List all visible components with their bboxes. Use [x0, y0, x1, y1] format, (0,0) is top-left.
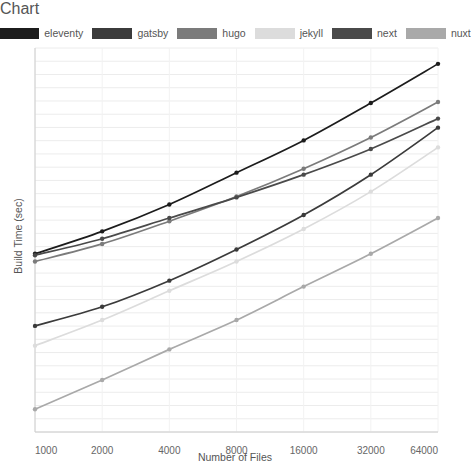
- data-point-gatsby-16000[interactable]: [301, 213, 305, 217]
- data-point-eleventy-4000[interactable]: [167, 202, 171, 206]
- data-point-gatsby-2000[interactable]: [100, 305, 104, 309]
- legend-swatch-next: [332, 28, 372, 39]
- data-point-next-8000[interactable]: [234, 195, 238, 199]
- data-point-nuxt-8000[interactable]: [234, 318, 238, 322]
- data-point-jekyll-16000[interactable]: [301, 227, 305, 231]
- legend-label-hugo: hugo: [222, 28, 245, 39]
- legend-item-hugo[interactable]: hugo: [177, 28, 245, 39]
- legend-label-eleventy: eleventy: [44, 28, 83, 39]
- legend-swatch-gatsby: [92, 28, 132, 39]
- data-point-nuxt-4000[interactable]: [167, 347, 171, 351]
- data-point-hugo-32000[interactable]: [369, 135, 373, 139]
- data-point-next-32000[interactable]: [369, 147, 373, 151]
- data-point-nuxt-16000[interactable]: [301, 284, 305, 288]
- legend-label-nuxt: nuxt: [451, 28, 471, 39]
- x-axis-title: Number of Files: [0, 451, 470, 463]
- data-point-gatsby-64000[interactable]: [436, 125, 440, 129]
- data-point-eleventy-8000[interactable]: [234, 170, 238, 174]
- legend-label-jekyll: jekyll: [300, 28, 323, 39]
- legend-item-next[interactable]: next: [332, 28, 397, 39]
- data-point-hugo-2000[interactable]: [100, 242, 104, 246]
- data-point-next-64000[interactable]: [436, 116, 440, 120]
- data-point-gatsby-8000[interactable]: [234, 247, 238, 251]
- plot-area: 1000200040008000160003200064000: [0, 42, 470, 465]
- data-point-eleventy-64000[interactable]: [436, 62, 440, 66]
- data-point-jekyll-64000[interactable]: [436, 145, 440, 149]
- chart-legend: eleventygatsbyhugojekyllnextnuxt: [0, 24, 470, 42]
- data-point-jekyll-32000[interactable]: [369, 189, 373, 193]
- data-point-gatsby-32000[interactable]: [369, 172, 373, 176]
- data-point-next-4000[interactable]: [167, 216, 171, 220]
- data-point-jekyll-1000[interactable]: [33, 343, 37, 347]
- data-point-jekyll-4000[interactable]: [167, 289, 171, 293]
- legend-label-gatsby: gatsby: [137, 28, 168, 39]
- legend-item-eleventy[interactable]: eleventy: [0, 28, 83, 39]
- data-point-nuxt-32000[interactable]: [369, 252, 373, 256]
- data-point-eleventy-32000[interactable]: [369, 101, 373, 105]
- data-point-hugo-64000[interactable]: [436, 100, 440, 104]
- data-point-jekyll-2000[interactable]: [100, 318, 104, 322]
- legend-swatch-eleventy: [0, 28, 39, 39]
- legend-item-gatsby[interactable]: gatsby: [92, 28, 168, 39]
- data-point-gatsby-1000[interactable]: [33, 324, 37, 328]
- data-point-next-16000[interactable]: [301, 172, 305, 176]
- legend-label-next: next: [377, 28, 397, 39]
- legend-swatch-hugo: [177, 28, 217, 39]
- data-point-nuxt-2000[interactable]: [100, 378, 104, 382]
- data-point-hugo-1000[interactable]: [33, 259, 37, 263]
- legend-item-nuxt[interactable]: nuxt: [406, 28, 471, 39]
- data-point-gatsby-4000[interactable]: [167, 278, 171, 282]
- line-chart-svg: 1000200040008000160003200064000: [0, 42, 470, 465]
- chart-page: eleventygatsbyhugojekyllnextnuxt 1000200…: [0, 18, 470, 465]
- legend-item-jekyll[interactable]: jekyll: [255, 28, 323, 39]
- data-point-nuxt-64000[interactable]: [436, 216, 440, 220]
- data-point-hugo-16000[interactable]: [301, 167, 305, 171]
- legend-swatch-jekyll: [255, 28, 295, 39]
- data-point-next-2000[interactable]: [100, 237, 104, 241]
- data-point-nuxt-1000[interactable]: [33, 407, 37, 411]
- data-point-next-1000[interactable]: [33, 253, 37, 257]
- data-point-jekyll-8000[interactable]: [234, 259, 238, 263]
- data-point-eleventy-2000[interactable]: [100, 229, 104, 233]
- y-axis-title: Build Time (sec): [12, 186, 24, 286]
- legend-swatch-nuxt: [406, 28, 446, 39]
- data-point-eleventy-16000[interactable]: [301, 138, 305, 142]
